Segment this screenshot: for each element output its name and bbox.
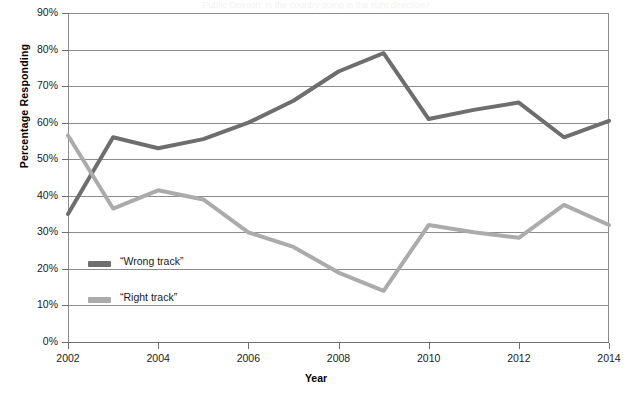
y-axis-tick-label: 0%	[8, 335, 58, 347]
x-axis-tick	[248, 343, 249, 349]
x-axis-title: Year	[0, 372, 632, 384]
x-axis-tick-label: 2004	[128, 352, 188, 364]
x-axis-tick-label: 2008	[309, 352, 369, 364]
x-axis-tick-label: 2012	[489, 352, 549, 364]
legend-swatch-right-track	[88, 297, 111, 303]
x-axis-tick	[158, 343, 159, 349]
legend-label-right-track: “Right track”	[120, 291, 177, 303]
y-axis-tick-label: 50%	[8, 152, 58, 164]
legend-swatch-wrong-track	[88, 261, 111, 267]
chart-title: Public Opinion: Is the country going in …	[0, 0, 632, 9]
x-axis-tick-label: 2014	[579, 352, 632, 364]
y-axis-title: Percentage Responding	[18, 26, 30, 186]
x-axis-tick	[429, 343, 430, 349]
series-line-wrong-track	[68, 53, 609, 214]
line-chart: Public Opinion: Is the country going in …	[0, 0, 632, 398]
y-axis-tick-label: 70%	[8, 79, 58, 91]
legend-label-wrong-track: “Wrong track”	[120, 255, 183, 267]
y-axis-tick-label: 40%	[8, 189, 58, 201]
x-axis-tick	[68, 343, 69, 349]
x-axis-tick	[519, 343, 520, 349]
x-axis-tick-label: 2002	[38, 352, 98, 364]
series-line-right-track	[68, 135, 609, 290]
x-axis-tick-label: 2010	[399, 352, 459, 364]
y-axis-tick-label: 10%	[8, 298, 58, 310]
y-axis-tick-label: 60%	[8, 116, 58, 128]
x-axis-tick-label: 2006	[218, 352, 278, 364]
y-axis-tick-label: 20%	[8, 262, 58, 274]
x-axis-tick	[339, 343, 340, 349]
y-axis-tick-label: 30%	[8, 225, 58, 237]
x-axis-tick	[609, 343, 610, 349]
y-axis-tick-label: 80%	[8, 43, 58, 55]
